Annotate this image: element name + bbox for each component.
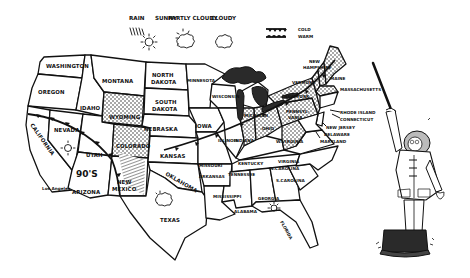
label-new-hampshire-line1: NEW: [309, 59, 320, 64]
legend-cloudy-label: CLOUDY: [211, 15, 237, 21]
label-iowa: IOWA: [195, 123, 213, 129]
label-texas: TEXAS: [160, 217, 180, 223]
label-north-dakota-line1: NORTH: [152, 72, 174, 78]
label-washington: WASHINGTON: [46, 63, 89, 69]
label-massachusetts: MASSACHUSETTS: [340, 87, 381, 92]
label-utah: UTAH: [86, 152, 103, 158]
label-missouri: MISSOURI: [199, 163, 223, 168]
label-west-virginia: W.VIRGINIA: [276, 139, 304, 144]
warm-front-icon: [266, 35, 286, 37]
label-north-carolina: N.CAROLINA: [270, 166, 300, 171]
label-montana: MONTANA: [102, 78, 134, 84]
label-new-jersey: NEW JERSEY: [326, 125, 356, 130]
rain-icon: [130, 28, 144, 35]
label-new-mexico-line1: NEW: [117, 179, 131, 185]
label-south-dakota-line1: SOUTH: [155, 99, 177, 105]
state-kansas: [148, 136, 198, 164]
label-new-hampshire-line2: HAMPSHIRE: [303, 65, 331, 70]
label-arizona: ARIZONA: [72, 189, 101, 195]
label-pennsylvania-line2: VANIA: [288, 115, 303, 120]
presenter-face: [408, 137, 422, 151]
cold-front-icon: [266, 29, 287, 32]
label-kentucky: KENTUCKY: [238, 161, 264, 166]
label-new-york: NEW YORK: [284, 94, 310, 99]
presenter-boots: [382, 230, 428, 252]
label-colorado: COLORADO: [116, 143, 151, 149]
legend: RAIN SUNNY PARTLY CLOUDY: [129, 15, 313, 50]
label-mississippi: MISSISSIPPI: [213, 194, 242, 199]
us-map: WASHINGTON OREGON CALIFORNIA Los Angeles…: [26, 46, 381, 260]
label-kansas: KANSAS: [160, 153, 185, 159]
label-wyoming: WYOMING: [109, 114, 141, 120]
label-indiana: INDIANA: [234, 138, 255, 143]
label-south-dakota-line2: DAKOTA: [152, 106, 178, 112]
label-new-mexico-line2: MEXICO: [112, 186, 137, 192]
label-wisconsin: WISCONSIN: [212, 94, 240, 99]
sun-icon: [141, 34, 157, 50]
label-oregon: OREGON: [38, 89, 65, 95]
label-ohio: OHIO: [262, 126, 275, 131]
state-wyoming: [102, 92, 144, 126]
label-nevada: NEVADA: [54, 127, 80, 133]
label-maryland: MARYLAND: [320, 139, 347, 144]
label-connecticut: CONNECTICUT: [340, 117, 373, 122]
label-rhode-island: RHODE ISLAND: [340, 110, 376, 115]
label-georgia: GEORGIA: [258, 196, 280, 201]
lake-superior: [222, 67, 266, 84]
label-nebraska: NEBRASKA: [144, 126, 178, 132]
label-pennsylvania-line1: PENNSYL-: [286, 109, 310, 114]
label-alabama: ALABAMA: [234, 209, 258, 214]
label-arkansas: ARKANSAS: [199, 174, 225, 179]
presenter-hand: [436, 192, 444, 199]
label-virginia: VIRGINIA: [278, 159, 300, 164]
label-north-dakota-line2: DAKOTA: [151, 79, 177, 85]
label-tennessee: TENNESSEE: [228, 172, 255, 177]
weather-map-illustration: RAIN SUNNY PARTLY CLOUDY: [0, 0, 470, 278]
label-minnesota: MINNESOTA: [187, 78, 216, 83]
label-vermont: VERMONT: [292, 80, 316, 85]
label-south-carolina: S.CAROLINA: [276, 178, 305, 183]
legend-cold-label: COLD: [298, 27, 311, 32]
weather-presenter-figure: [373, 63, 444, 257]
label-florida: FLORIDA: [279, 220, 294, 241]
presenter-raised-arm: [386, 110, 402, 152]
temperature-annotation: 90'S: [76, 169, 98, 179]
legend-warm-label: WARM: [298, 34, 313, 39]
label-delaware: DELAWARE: [324, 132, 350, 137]
label-idaho: IDAHO: [80, 105, 101, 111]
label-michigan: MICHIGAN: [244, 113, 269, 118]
partly-cloudy-icon: [176, 29, 195, 48]
label-maine: MAINE: [330, 76, 345, 81]
label-los-angeles: Los Angeles: [42, 186, 71, 191]
cloud-icon: [216, 35, 233, 49]
legend-rain-label: RAIN: [129, 15, 145, 21]
